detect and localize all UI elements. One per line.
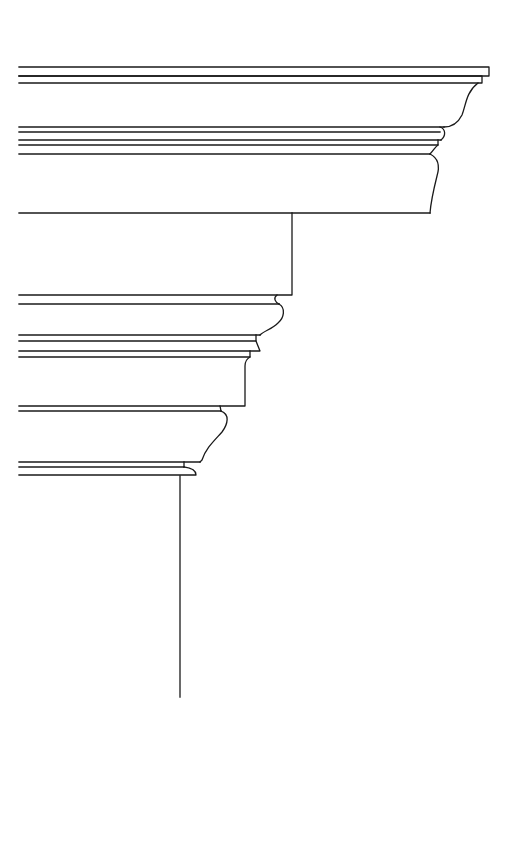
cornice-crown — [19, 67, 489, 127]
capital-abacus — [19, 462, 196, 475]
architrave-upper — [19, 295, 283, 357]
cornice-bed-moldings — [19, 127, 445, 154]
frieze-fascia — [19, 154, 438, 213]
capital-echinus — [19, 406, 227, 462]
frieze-block — [19, 213, 292, 295]
profile-drawing: Entablature / cornice profile line drawi… — [0, 0, 528, 851]
architrave-middle — [19, 357, 250, 406]
